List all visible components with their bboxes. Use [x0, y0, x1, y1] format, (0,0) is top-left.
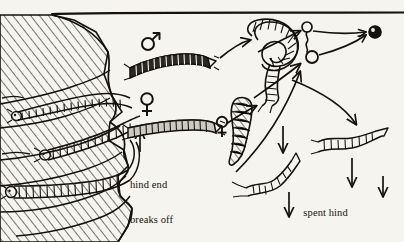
spent-hind-ends-caption: spent hind ends burst and sink to bottom	[302, 184, 349, 242]
spent-hind-end-2	[232, 153, 300, 197]
caption-line: breaks off	[130, 214, 176, 226]
female-hind-end-symbol	[217, 117, 227, 137]
illustration-canvas: hind end breaks off and swims to surface…	[0, 0, 404, 242]
caption-line: hind end	[130, 179, 176, 191]
caption-line: spent hind	[302, 207, 349, 219]
arrow-swarm-to-spent-right	[292, 80, 356, 124]
fertilized-egg	[369, 26, 381, 38]
arrow-egg-to-fertilized-egg	[319, 35, 366, 55]
arrow-male-to-swarm	[220, 40, 250, 58]
coiled-swarming-epitoke	[248, 19, 299, 113]
water-surface-line	[52, 13, 404, 15]
egg-cell	[306, 51, 318, 63]
female-epitoke-worm	[122, 120, 225, 140]
spent-hind-end-1	[311, 128, 388, 154]
male-symbol	[142, 33, 160, 50]
arrow-swarm-to-sperm	[258, 31, 300, 52]
female-symbol	[141, 93, 153, 116]
female-hind-end-segment	[229, 97, 252, 165]
arrow-sperm-to-fertilized-egg	[313, 31, 366, 33]
hind-end-breaks-off-caption: hind end breaks off and swims to surface	[130, 156, 176, 242]
male-epitoke-worm	[124, 54, 219, 80]
sperm-cell	[302, 22, 312, 52]
